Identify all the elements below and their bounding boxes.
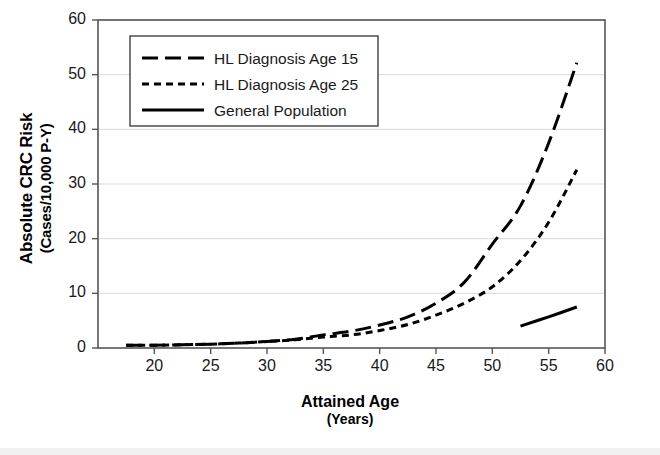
y-tick-label: 30 <box>44 174 86 192</box>
x-tick-label: 60 <box>585 357 625 375</box>
series-line <box>521 307 577 326</box>
x-tick-label: 30 <box>247 357 287 375</box>
x-tick-label: 45 <box>416 357 456 375</box>
x-axis-label-line2: (Years) <box>90 411 610 428</box>
x-tick-label: 40 <box>360 357 400 375</box>
legend-label: HL Diagnosis Age 15 <box>214 50 358 67</box>
y-axis-label-line1: Absolute CRC Risk <box>17 113 36 265</box>
x-tick-label: 25 <box>191 357 231 375</box>
y-tick-label: 60 <box>44 10 86 28</box>
chart-figure: Absolute CRC Risk (Cases/10,000 P-Y) Att… <box>0 0 660 455</box>
x-tick-label: 55 <box>529 357 569 375</box>
bottom-strip <box>0 448 660 455</box>
y-tick-label: 20 <box>44 229 86 247</box>
y-tick-label: 10 <box>44 283 86 301</box>
y-tick-label: 0 <box>44 338 86 356</box>
legend-label: HL Diagnosis Age 25 <box>214 76 358 93</box>
x-tick-label: 20 <box>134 357 174 375</box>
series-line <box>126 170 577 346</box>
y-tick-label: 50 <box>44 65 86 83</box>
legend-label: General Population <box>214 102 347 119</box>
x-tick-label: 50 <box>472 357 512 375</box>
plot-area: HL Diagnosis Age 15HL Diagnosis Age 25Ge… <box>0 0 660 455</box>
x-axis-label: Attained Age (Years) <box>90 392 610 428</box>
chart-legend: HL Diagnosis Age 15HL Diagnosis Age 25Ge… <box>130 36 378 126</box>
x-axis-label-line1: Attained Age <box>301 393 399 410</box>
x-tick-label: 35 <box>303 357 343 375</box>
y-tick-label: 40 <box>44 119 86 137</box>
